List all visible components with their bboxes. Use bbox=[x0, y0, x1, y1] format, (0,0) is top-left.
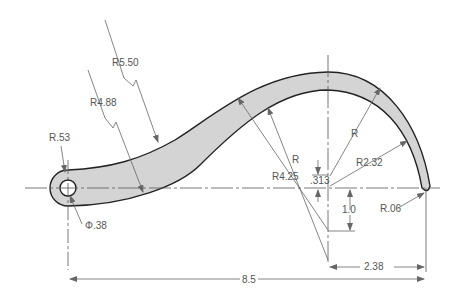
part-body bbox=[50, 72, 430, 206]
dim-r-inner: R bbox=[351, 128, 358, 139]
dim-r488: R4.88 bbox=[90, 97, 117, 108]
dim-r006: R.06 bbox=[380, 203, 402, 214]
dim-313: .313 bbox=[310, 175, 330, 186]
dim-1-0: 1.0 bbox=[342, 204, 356, 215]
dim-238: 2.38 bbox=[364, 261, 384, 272]
dim-r053: R.53 bbox=[49, 132, 71, 143]
drawing-canvas: R5.50 R4.88 R.53 Φ.38 R R4.25 R R2.32 .3… bbox=[0, 0, 459, 302]
dim-r232: R2.32 bbox=[356, 157, 383, 168]
dim-dia038: Φ.38 bbox=[85, 220, 107, 231]
dim-r-outer: R bbox=[292, 154, 299, 165]
dim-8-5: 8.5 bbox=[242, 274, 256, 285]
dim-r425: R4.25 bbox=[272, 171, 299, 182]
dim-r550: R5.50 bbox=[112, 57, 139, 68]
